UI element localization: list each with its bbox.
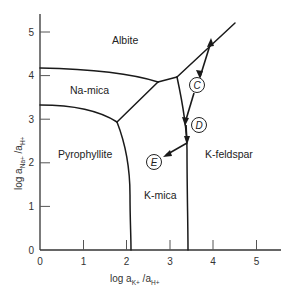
arrow-icon (207, 38, 214, 47)
svg-text:C: C (193, 80, 201, 91)
x-tick-0: 0 (37, 256, 43, 267)
x-tick-3: 3 (167, 256, 173, 267)
axes (40, 14, 281, 250)
arrow-icon (182, 117, 189, 126)
boundary-albite-kmica (158, 77, 177, 82)
field-label-pyrophyllite: Pyrophyllite (58, 148, 112, 160)
field-label-albite: Albite (112, 34, 138, 46)
boundary-albite-namica (40, 68, 158, 82)
boundary-albite-kfeldspar (177, 23, 235, 77)
y-tick-5: 5 (28, 27, 34, 38)
svg-text:E: E (151, 157, 158, 168)
field-label-namica: Na-mica (70, 84, 109, 96)
point-e: E (147, 155, 162, 170)
point-d: D (192, 118, 207, 133)
x-axis-label: log aK+ /aH+ (110, 273, 160, 286)
y-tick-4: 4 (28, 70, 34, 81)
field-labels: Albite Na-mica Pyrophyllite K-mica K-fel… (58, 34, 253, 201)
y-tick-0: 0 (28, 245, 34, 256)
reaction-path: C D E (147, 38, 215, 170)
point-c: C (190, 78, 205, 93)
y-axis-label: log aNa+ /aH+ (13, 136, 26, 190)
boundary-kmica-kfeldspar (177, 77, 188, 250)
boundary-pyrophyllite-kmica (117, 122, 131, 250)
boundary-namica-pyrophyllite (40, 105, 117, 122)
x-tick-1: 1 (81, 256, 87, 267)
y-tick-2: 2 (28, 157, 34, 168)
x-tick-5: 5 (254, 256, 260, 267)
x-tick-4: 4 (210, 256, 216, 267)
y-tick-1: 1 (28, 201, 34, 212)
field-label-kmica: K-mica (144, 189, 177, 201)
arrow-icon (163, 150, 172, 157)
field-label-kfeldspar: K-feldspar (205, 148, 253, 160)
y-ticks: 0 1 2 3 4 5 (28, 27, 50, 256)
boundary-namica-kmica (117, 82, 158, 122)
svg-text:D: D (195, 120, 202, 131)
y-tick-3: 3 (28, 114, 34, 125)
x-ticks: 0 1 2 3 4 5 (37, 240, 260, 267)
x-tick-2: 2 (124, 256, 130, 267)
phase-diagram: 0 1 2 3 4 5 0 1 2 3 4 5 log aK+ /aH+ log… (0, 0, 293, 293)
